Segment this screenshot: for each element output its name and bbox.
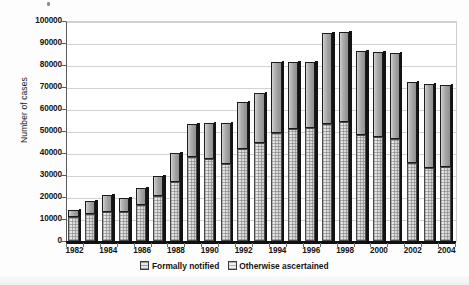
bar-1983[interactable]	[85, 201, 95, 241]
bar-segment-otherwise-ascertained	[356, 51, 366, 136]
bar-1999[interactable]	[356, 51, 366, 241]
bar-segment-formally-notified	[305, 128, 315, 241]
bar-depth-shadow	[231, 122, 234, 241]
x-axis-tick-label: 2004	[427, 246, 467, 255]
bar-2003[interactable]	[424, 84, 434, 241]
bar-1995[interactable]	[288, 62, 298, 241]
bar-segment-formally-notified	[271, 133, 281, 241]
bar-1998[interactable]	[339, 32, 349, 241]
bar-1989[interactable]	[187, 124, 197, 241]
bar-1993[interactable]	[254, 93, 264, 242]
bar-1992[interactable]	[237, 102, 247, 241]
bar-2004[interactable]	[440, 85, 450, 241]
bar-segment-formally-notified	[204, 159, 214, 242]
bar-1997[interactable]	[322, 33, 332, 241]
y-axis-tick-label: 30000	[6, 170, 62, 179]
bar-depth-shadow	[112, 194, 115, 241]
bar-segment-formally-notified	[373, 137, 383, 242]
bar-segment-otherwise-ascertained	[221, 123, 231, 164]
bar-segment-formally-notified	[424, 168, 434, 241]
bar-segment-otherwise-ascertained	[204, 123, 214, 158]
bar-1987[interactable]	[153, 176, 163, 241]
bar-depth-shadow	[315, 61, 318, 241]
bar-depth-shadow	[180, 152, 183, 241]
bar-depth-shadow	[146, 187, 149, 241]
bar-1982[interactable]	[68, 210, 78, 241]
bar-segment-formally-notified	[221, 164, 231, 241]
bar-depth-shadow	[349, 31, 352, 241]
bar-segment-otherwise-ascertained	[339, 32, 349, 122]
bar-1984[interactable]	[102, 195, 112, 241]
bar-segment-formally-notified	[68, 217, 78, 241]
bar-depth-shadow	[248, 101, 251, 241]
legend-item-formally-notified[interactable]: Formally notified	[140, 261, 219, 271]
y-axis-tick-label: 40000	[6, 148, 62, 157]
bar-segment-formally-notified	[153, 196, 163, 241]
bar-1996[interactable]	[305, 62, 315, 241]
bar-1985[interactable]	[119, 198, 129, 241]
bar-2001[interactable]	[390, 53, 400, 241]
bar-segment-otherwise-ascertained	[271, 62, 281, 134]
bar-depth-shadow	[434, 83, 437, 241]
y-axis-tick-label: 80000	[6, 60, 62, 69]
scan-noise-band	[0, 276, 469, 285]
bar-depth-shadow	[163, 175, 166, 241]
legend-label-formally-notified: Formally notified	[152, 261, 219, 271]
bar-1990[interactable]	[204, 123, 214, 241]
bar-segment-otherwise-ascertained	[407, 82, 417, 163]
y-axis-tick-label: 20000	[6, 192, 62, 201]
bar-1988[interactable]	[170, 153, 180, 241]
bar-depth-shadow	[79, 209, 82, 241]
bar-segment-formally-notified	[102, 212, 112, 241]
bar-1986[interactable]	[136, 188, 146, 241]
bar-segment-formally-notified	[440, 167, 450, 241]
series-swatch-formally-notified	[140, 261, 149, 270]
bar-segment-formally-notified	[170, 182, 180, 241]
bar-2000[interactable]	[373, 52, 383, 241]
legend-item-otherwise-ascertained[interactable]: Otherwise ascertained	[228, 261, 329, 271]
bar-segment-formally-notified	[390, 139, 400, 241]
bar-depth-shadow	[95, 200, 98, 241]
bar-segment-formally-notified	[237, 149, 247, 241]
y-axis-tick-label: 60000	[6, 104, 62, 113]
bar-depth-shadow	[417, 81, 420, 242]
bar-segment-otherwise-ascertained	[187, 124, 197, 157]
bar-1994[interactable]	[271, 62, 281, 241]
bar-segment-formally-notified	[288, 129, 298, 241]
series-swatch-otherwise-ascertained	[228, 261, 237, 270]
bar-2002[interactable]	[407, 82, 417, 242]
y-axis-tick-label: 70000	[6, 82, 62, 91]
bar-segment-otherwise-ascertained	[305, 62, 315, 128]
bar-segment-formally-notified	[407, 163, 417, 241]
bar-depth-shadow	[129, 197, 132, 241]
bar-depth-shadow	[366, 50, 369, 241]
bar-segment-otherwise-ascertained	[237, 102, 247, 148]
chart-figure: Number of cases 010000200003000040000500…	[0, 0, 469, 285]
chart-legend: Formally notified Otherwise ascertained	[0, 261, 469, 271]
bar-segment-otherwise-ascertained	[288, 62, 298, 129]
y-axis-tick-label: 50000	[6, 126, 62, 135]
bar-segment-formally-notified	[356, 135, 366, 241]
bar-segment-otherwise-ascertained	[424, 84, 434, 169]
y-axis-ticks: 0100002000030000400005000060000700008000…	[0, 0, 62, 285]
bar-segment-otherwise-ascertained	[254, 93, 264, 144]
bar-segment-formally-notified	[187, 157, 197, 241]
bar-segment-otherwise-ascertained	[153, 176, 163, 196]
bar-depth-shadow	[298, 61, 301, 241]
bar-depth-shadow	[451, 84, 454, 241]
bar-segment-formally-notified	[119, 212, 129, 241]
bar-segment-otherwise-ascertained	[85, 201, 95, 213]
bar-segment-formally-notified	[339, 122, 349, 241]
y-axis-tick-label: 0	[6, 236, 62, 245]
bar-depth-shadow	[265, 92, 268, 242]
legend-label-otherwise-ascertained: Otherwise ascertained	[239, 261, 328, 271]
bar-segment-formally-notified	[322, 124, 332, 241]
bar-1991[interactable]	[221, 123, 231, 241]
bar-depth-shadow	[282, 61, 285, 241]
gridline	[67, 22, 456, 23]
gridline	[67, 44, 456, 45]
y-axis-tick-label: 90000	[6, 38, 62, 47]
bar-segment-otherwise-ascertained	[440, 85, 450, 168]
bar-segment-otherwise-ascertained	[68, 210, 78, 217]
bar-segment-otherwise-ascertained	[373, 52, 383, 137]
